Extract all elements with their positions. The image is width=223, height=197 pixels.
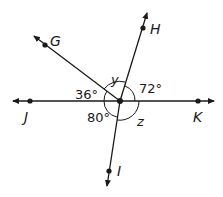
angle-arc-hk	[125, 86, 135, 101]
angle-label-80: 80°	[87, 110, 110, 125]
angle-diagram: G H J K I 36° 72° 80° y z	[0, 0, 223, 197]
angle-label-y: y	[110, 72, 119, 87]
angle-label-72: 72°	[139, 81, 162, 96]
point-j	[27, 98, 32, 103]
point-i	[106, 168, 111, 173]
label-h: H	[150, 21, 161, 37]
angle-arc-jg	[104, 91, 107, 101]
line-hi	[107, 13, 147, 186]
point-h	[140, 25, 145, 30]
point-g	[42, 42, 47, 47]
angle-label-36: 36°	[75, 87, 98, 102]
label-k: K	[193, 109, 204, 125]
point-k	[195, 98, 200, 103]
label-j: J	[21, 109, 28, 125]
label-i: I	[117, 163, 121, 179]
label-g: G	[50, 33, 61, 49]
angle-label-z: z	[136, 114, 145, 129]
center-point	[117, 98, 123, 104]
